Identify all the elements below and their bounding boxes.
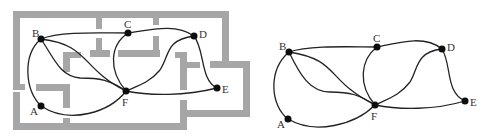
graph-figure: A B C D E F A B C D E F xyxy=(0,0,488,139)
label-d: D xyxy=(199,28,207,40)
node-e xyxy=(462,98,469,105)
label-c: C xyxy=(373,32,380,44)
label-b: B xyxy=(279,40,286,52)
node-c xyxy=(374,44,381,51)
edge-b-f-middle xyxy=(289,52,375,105)
edge-c-d xyxy=(128,28,194,36)
edge-a-f xyxy=(41,91,126,115)
edge-c-f xyxy=(363,47,377,105)
node-c xyxy=(125,30,132,37)
edge-b-c xyxy=(41,33,128,39)
floor-plan-walls xyxy=(13,11,250,130)
node-d xyxy=(191,33,198,40)
label-c: C xyxy=(124,18,131,30)
edge-c-f xyxy=(113,33,128,91)
node-d xyxy=(439,46,446,53)
edge-d-e xyxy=(442,49,465,101)
edge-e-f xyxy=(126,88,217,94)
node-e xyxy=(214,85,221,92)
edge-a-b xyxy=(28,39,41,106)
label-d: D xyxy=(447,41,455,53)
edge-a-b xyxy=(274,52,289,119)
label-e: E xyxy=(470,96,477,108)
right-graph-edges xyxy=(274,41,465,127)
label-f: F xyxy=(371,110,377,122)
edge-c-d xyxy=(377,41,442,49)
label-b: B xyxy=(32,27,39,39)
node-a xyxy=(38,103,45,110)
edge-a-f xyxy=(288,105,375,127)
node-a xyxy=(285,116,292,123)
label-a: A xyxy=(277,118,285,130)
label-e: E xyxy=(222,83,229,95)
edge-b-c xyxy=(289,47,377,52)
node-f xyxy=(123,88,130,95)
edge-e-f xyxy=(375,101,465,108)
edge-d-f xyxy=(375,49,442,105)
label-a: A xyxy=(30,105,38,117)
label-f: F xyxy=(122,96,128,108)
node-f xyxy=(372,102,379,109)
node-b xyxy=(286,49,293,56)
